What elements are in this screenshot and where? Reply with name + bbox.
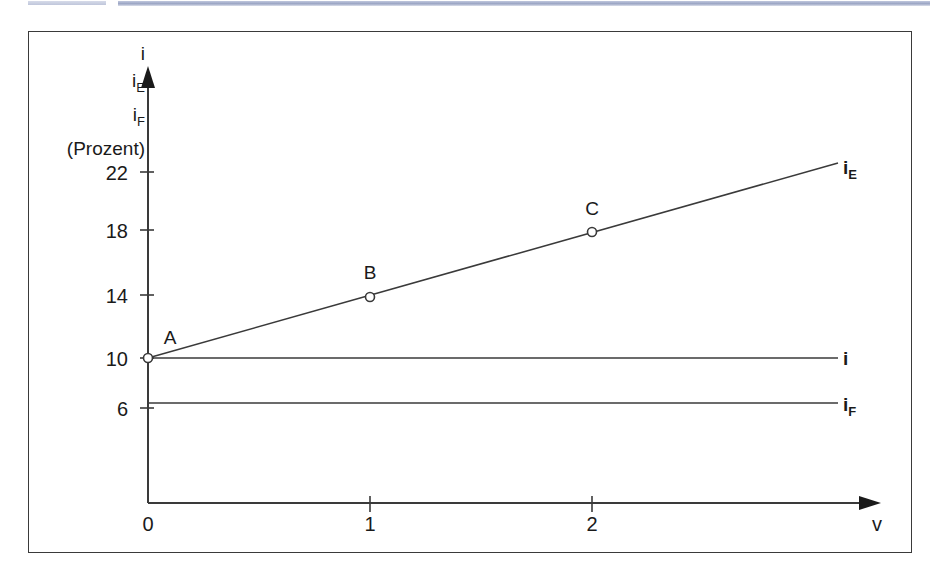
y-axis-caption-iF-sub: F xyxy=(137,114,145,129)
data-point-label-B: B xyxy=(355,262,385,284)
series-label-iF: iF xyxy=(843,394,856,419)
y-tick-label-6: 6 xyxy=(10,398,128,421)
data-point-label-A: A xyxy=(155,327,185,349)
chart-plot-area xyxy=(28,31,912,553)
data-point-B-marker xyxy=(366,293,375,302)
y-axis-caption: i iE iF (Prozent) xyxy=(0,40,145,162)
y-axis-caption-iE-sub: E xyxy=(136,80,145,95)
y-tick-label-18: 18 xyxy=(10,220,128,243)
series-line-iE xyxy=(148,163,838,358)
x-axis xyxy=(148,496,881,510)
series-label-iE: iE xyxy=(843,157,857,182)
toolbar-chip xyxy=(28,1,106,5)
y-axis-caption-line-iE: iE xyxy=(0,67,145,101)
y-axis-caption-line-unit: (Prozent) xyxy=(0,135,145,162)
data-point-C-marker xyxy=(588,228,597,237)
series-label-i-base: i xyxy=(843,348,848,369)
y-tick-label-22: 22 xyxy=(10,162,128,185)
data-point-A-marker xyxy=(144,354,153,363)
series-label-iF-sub: F xyxy=(848,404,856,419)
y-tick-label-10: 10 xyxy=(10,348,128,371)
y-axis-caption-line-iF: iF xyxy=(0,101,145,135)
series-label-i: i xyxy=(843,348,848,370)
y-axis-caption-i: i xyxy=(141,43,145,64)
x-tick-label-2: 2 xyxy=(572,513,612,536)
x-axis-name-label: v xyxy=(872,513,882,536)
data-point-label-C: C xyxy=(577,198,607,220)
y-axis-unit-label: (Prozent) xyxy=(67,138,145,159)
truncated-toolbar-strip xyxy=(0,0,940,7)
y-tick-label-14: 14 xyxy=(10,285,128,308)
series-label-iE-sub: E xyxy=(848,167,857,182)
y-axis-caption-line-i: i xyxy=(0,40,145,67)
toolbar-gradient-bar xyxy=(118,1,930,6)
x-tick-label-1: 1 xyxy=(350,513,390,536)
x-tick-label-0: 0 xyxy=(128,513,168,536)
